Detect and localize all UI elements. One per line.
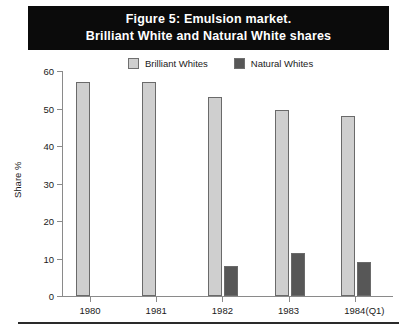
plot-area: 0102030405060 xyxy=(62,71,393,297)
x-tick-1984 xyxy=(355,297,356,302)
bar-brilliant-1980 xyxy=(76,82,90,296)
bar-brilliant-1981 xyxy=(142,82,156,296)
figure-title-line-1: Figure 5: Emulsion market. xyxy=(126,11,292,28)
x-tick-label-1981: 1981 xyxy=(146,305,167,316)
legend-label-natural-whites: Natural Whites xyxy=(251,58,313,69)
bar-group-1984 xyxy=(341,71,371,296)
y-tick-10 xyxy=(57,259,62,260)
bar-natural-1984 xyxy=(357,262,371,296)
legend-item-brilliant-whites: Brilliant Whites xyxy=(128,58,208,69)
bottom-divider xyxy=(18,322,399,324)
y-tick-label-60: 60 xyxy=(43,66,54,77)
bar-brilliant-1982 xyxy=(208,97,222,296)
x-tick-label-1982: 1982 xyxy=(212,305,233,316)
x-axis-annotation: (Q1) xyxy=(366,305,385,316)
y-tick-0 xyxy=(57,296,62,297)
bar-group-1981 xyxy=(142,71,172,296)
y-tick-label-50: 50 xyxy=(43,103,54,114)
bar-brilliant-1984 xyxy=(341,116,355,296)
legend-item-natural-whites: Natural Whites xyxy=(234,58,313,69)
y-tick-60 xyxy=(57,71,62,72)
x-tick-label-1984: 1984 xyxy=(344,305,365,316)
y-axis-line xyxy=(62,71,63,297)
x-tick-1981 xyxy=(156,297,157,302)
x-tick-1980 xyxy=(90,297,91,302)
bar-group-1980 xyxy=(76,71,106,296)
x-axis-line xyxy=(62,296,393,297)
x-tick-label-1983: 1983 xyxy=(278,305,299,316)
x-tick-1983 xyxy=(289,297,290,302)
bar-natural-1982 xyxy=(224,266,238,296)
figure-title-line-2: Brilliant White and Natural White shares xyxy=(86,28,332,45)
legend-label-brilliant-whites: Brilliant Whites xyxy=(145,58,208,69)
y-tick-30 xyxy=(57,184,62,185)
bar-group-1982 xyxy=(208,71,238,296)
y-tick-label-40: 40 xyxy=(43,141,54,152)
bar-natural-1983 xyxy=(291,253,305,296)
x-tick-1982 xyxy=(222,297,223,302)
legend-swatch-natural-whites xyxy=(234,58,245,69)
y-tick-50 xyxy=(57,109,62,110)
bar-group-1983 xyxy=(275,71,305,296)
y-tick-label-20: 20 xyxy=(43,216,54,227)
bar-brilliant-1983 xyxy=(275,110,289,296)
y-tick-label-0: 0 xyxy=(49,291,54,302)
x-tick-label-1980: 1980 xyxy=(79,305,100,316)
legend-swatch-brilliant-whites xyxy=(128,58,139,69)
figure-title-banner: Figure 5: Emulsion market. Brilliant Whi… xyxy=(28,6,389,50)
y-tick-20 xyxy=(57,221,62,222)
y-axis-title: Share % xyxy=(12,162,23,198)
chart-legend: Brilliant Whites Natural Whites xyxy=(128,58,313,69)
y-tick-label-30: 30 xyxy=(43,178,54,189)
y-tick-label-10: 10 xyxy=(43,253,54,264)
y-tick-40 xyxy=(57,146,62,147)
